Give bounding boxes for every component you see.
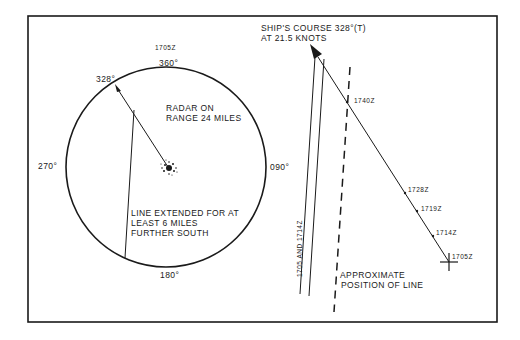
echo-lines-label: 1705 AND 1714Z — [295, 220, 305, 277]
course-note-line2: AT 21.5 KNOTS — [261, 33, 327, 43]
track-time-1728: 1728Z — [408, 185, 429, 195]
track-time-1714: 1714Z — [436, 228, 457, 238]
bearing-label-270: 270° — [38, 161, 57, 171]
bearing-label-328: 328° — [96, 74, 115, 84]
track-arrow-icon — [310, 44, 322, 59]
approx-note-line2: POSITION OF LINE — [341, 280, 423, 290]
diagram-canvas — [0, 0, 520, 340]
scope-time-label: 1705Z — [155, 43, 176, 53]
figure-border — [28, 16, 497, 322]
track-time-1719: 1719Z — [421, 204, 442, 214]
course-bearing-arrow — [115, 84, 168, 167]
track-time-1705: 1705Z — [452, 252, 473, 262]
range-note-line2: RANGE 24 MILES — [166, 113, 242, 123]
extension-note-line2: LEAST 6 MILES — [131, 218, 198, 228]
echo-line-1714 — [309, 59, 324, 296]
track-time-1740: 1740Z — [354, 96, 375, 106]
extension-note-line1: LINE EXTENDED FOR AT — [131, 208, 239, 218]
bearing-label-090: 090° — [270, 162, 289, 172]
approx-note-line1: APPROXIMATE — [340, 270, 405, 280]
ship-echo-icon — [160, 159, 177, 175]
bearing-label-360: 360° — [159, 58, 178, 68]
extension-note-line3: FURTHER SOUTH — [131, 228, 209, 238]
course-note-line1: SHIP'S COURSE 328°(T) — [261, 23, 366, 33]
range-note-line1: RADAR ON — [166, 103, 214, 113]
bearing-label-180: 180° — [160, 270, 179, 280]
